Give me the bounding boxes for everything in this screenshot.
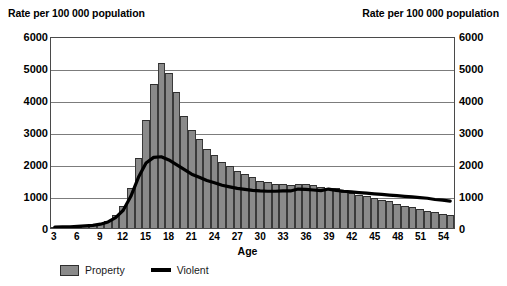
y-tick-right-2000: 2000: [459, 160, 505, 171]
bar-age-28: [241, 174, 249, 228]
bar-age-8: [89, 225, 97, 228]
y-tick-left-0: 0: [4, 224, 48, 235]
bar-age-26: [226, 166, 234, 228]
x-tick-54: 54: [438, 232, 449, 242]
bar-age-38: [317, 187, 325, 228]
bar-age-45: [371, 198, 379, 228]
legend-swatch-line-icon: [151, 268, 171, 271]
bar-age-6: [74, 227, 82, 228]
bar-age-36: [302, 184, 310, 228]
bar-age-18: [165, 73, 173, 228]
y-tick-left-2000: 2000: [4, 160, 48, 171]
bar-age-11: [112, 215, 120, 228]
bar-age-29: [249, 177, 257, 228]
x-tick-12: 12: [117, 232, 128, 242]
bar-age-9: [97, 224, 105, 228]
bar-age-52: [424, 211, 432, 228]
bar-age-31: [264, 182, 272, 228]
bar-age-34: [287, 185, 295, 228]
bar-age-47: [386, 201, 394, 228]
x-axis-label-text: Age: [238, 245, 258, 257]
bar-age-44: [363, 196, 371, 228]
bar-age-48: [393, 204, 401, 228]
y-tick-left-6000: 6000: [4, 32, 48, 43]
bar-age-7: [81, 226, 89, 228]
bar-age-16: [150, 84, 158, 228]
bar-age-17: [158, 63, 166, 228]
left-axis-title: Rate per 100 000 population: [8, 7, 145, 19]
chart-root: Rate per 100 000 population Rate per 100…: [0, 0, 507, 286]
y-tick-right-6000: 6000: [459, 32, 505, 43]
bar-series-property: [51, 38, 454, 228]
bar-age-21: [188, 130, 196, 228]
bar-age-53: [431, 212, 439, 228]
x-tick-24: 24: [209, 232, 220, 242]
y-tick-left-4000: 4000: [4, 96, 48, 107]
x-axis-label: Age: [0, 245, 507, 257]
bar-age-50: [409, 207, 417, 228]
legend-item-violent: Violent: [151, 264, 209, 276]
bar-age-4: [59, 227, 67, 228]
bar-age-24: [211, 155, 219, 228]
bar-age-20: [180, 116, 188, 228]
y-tick-left-1000: 1000: [4, 192, 48, 203]
x-tick-18: 18: [163, 232, 174, 242]
bar-age-37: [310, 185, 318, 228]
bar-age-46: [378, 200, 386, 229]
right-axis-title: Rate per 100 000 population: [362, 7, 499, 19]
bar-age-41: [340, 192, 348, 228]
bar-age-42: [348, 193, 356, 228]
x-tick-9: 9: [97, 232, 103, 242]
bar-age-32: [272, 184, 280, 228]
bar-age-12: [119, 206, 127, 228]
bar-age-13: [127, 188, 135, 228]
x-axis-tick-layer: 369121518212427303336394245485154: [50, 232, 455, 246]
bar-age-19: [173, 92, 181, 228]
bar-age-22: [196, 139, 204, 228]
x-tick-3: 3: [51, 232, 57, 242]
x-tick-6: 6: [74, 232, 80, 242]
bar-age-30: [256, 181, 264, 229]
x-tick-48: 48: [392, 232, 403, 242]
y-tick-left-3000: 3000: [4, 128, 48, 139]
x-tick-36: 36: [300, 232, 311, 242]
y-tick-right-0: 0: [459, 224, 505, 235]
legend-label-property: Property: [85, 264, 125, 276]
x-tick-33: 33: [278, 232, 289, 242]
bar-age-55: [447, 215, 455, 228]
bar-age-49: [401, 206, 409, 228]
bar-age-51: [416, 209, 424, 228]
legend-swatch-bar-icon: [60, 265, 79, 276]
bar-age-15: [142, 120, 150, 228]
bar-age-27: [234, 171, 242, 228]
bar-age-35: [295, 184, 303, 228]
bar-age-10: [104, 221, 112, 228]
bar-age-33: [279, 184, 287, 228]
bar-age-23: [203, 149, 211, 228]
y-tick-left-5000: 5000: [4, 64, 48, 75]
y-tick-right-5000: 5000: [459, 64, 505, 75]
bar-age-14: [135, 158, 143, 228]
x-tick-51: 51: [415, 232, 426, 242]
x-tick-21: 21: [186, 232, 197, 242]
y-tick-right-1000: 1000: [459, 192, 505, 203]
y-tick-right-4000: 4000: [459, 96, 505, 107]
bar-age-54: [439, 214, 447, 228]
bar-age-43: [355, 195, 363, 228]
x-tick-42: 42: [346, 232, 357, 242]
x-tick-15: 15: [140, 232, 151, 242]
legend-item-property: Property: [60, 264, 125, 276]
y-tick-right-3000: 3000: [459, 128, 505, 139]
plot-area: [50, 37, 455, 229]
bar-age-3: [51, 227, 59, 228]
x-tick-27: 27: [232, 232, 243, 242]
bar-age-5: [66, 227, 74, 228]
bar-age-25: [218, 162, 226, 229]
bar-age-40: [333, 188, 341, 228]
legend-label-violent: Violent: [177, 264, 209, 276]
x-tick-30: 30: [255, 232, 266, 242]
x-tick-39: 39: [323, 232, 334, 242]
x-tick-45: 45: [369, 232, 380, 242]
chart-legend: Property Violent: [50, 262, 455, 278]
bar-age-39: [325, 188, 333, 228]
